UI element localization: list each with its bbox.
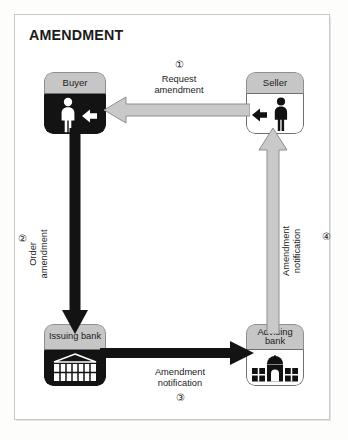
node-issuing-bank-body [44,350,106,386]
arrow-order-amendment [60,128,90,334]
page-title: AMENDMENT [29,26,123,44]
arrow-amendment-notification-banks [100,340,254,366]
node-advising-bank-body [246,350,304,386]
arrow-left-icon [82,110,97,123]
flow-label-order-amendment: Order amendment [28,208,50,300]
flow-number-1: ① [136,59,222,70]
flow-label-amendment-notification-banks: Amendment notification [134,367,226,389]
node-buyer-label: Buyer [44,72,106,94]
flow-label-request-amendment: Request amendment [136,74,222,96]
node-seller-label: Seller [246,72,304,94]
bank-building-icon [50,353,100,383]
flow-label-amendment-notification-seller: Amendment notification [281,199,303,303]
node-buyer[interactable]: Buyer [44,72,106,134]
bank-domed-building-icon [251,353,299,383]
node-seller[interactable]: Seller [246,72,304,134]
flow-number-3: ③ [134,392,226,403]
flow-number-4: ④ [318,231,334,242]
arrow-request-amendment [104,95,250,125]
person-icon [248,95,302,133]
diagram-page: AMENDMENT Buyer Seller [0,0,348,440]
arrow-left-icon [252,108,267,121]
